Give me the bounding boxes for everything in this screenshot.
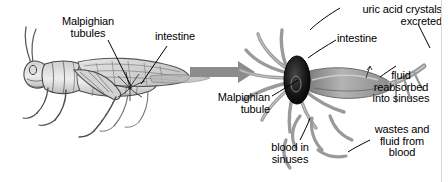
grasshopper-illustration [23, 27, 210, 137]
label-uric-acid-crystals-excreted: uric acid crystals excreted [318, 4, 442, 27]
leader-intestine-right [308, 40, 336, 58]
excretion-diagram-figure: Malpighian tubules intestine uric acid c… [0, 0, 448, 182]
leader-blood-in-sinuses [300, 118, 310, 140]
label-intestine-right: intestine [337, 33, 407, 45]
label-wastes-and-fluid-from-blood: wastes and fluid from blood [360, 124, 444, 159]
label-intestine-left: intestine [155, 31, 235, 43]
label-malpighian-tubules-left: Malpighian tubules [42, 16, 134, 39]
label-blood-in-sinuses: blood in sinuses [252, 142, 328, 165]
page-edge-rule [441, 0, 442, 182]
label-malpighian-tubule-right: Malpighian tubule [188, 92, 270, 115]
label-fluid-reabsorbed-into-sinuses: fluid reabsorbed into sinuses [358, 70, 444, 105]
leader-uric-acid-b [418, 24, 430, 48]
